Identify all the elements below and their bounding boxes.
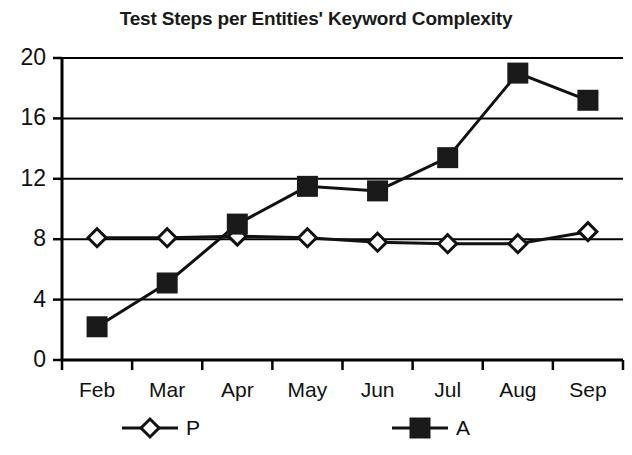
data-point-P-Feb (88, 229, 106, 247)
x-tick-label-sep: Sep (569, 378, 606, 401)
data-series-group (88, 64, 598, 337)
legend-marker-A (411, 419, 430, 438)
x-tick-label-mar: Mar (149, 378, 185, 401)
x-axis-labels-group: FebMarAprMayJunJulAugSep (79, 378, 607, 401)
x-tick-label-feb: Feb (79, 378, 115, 401)
x-tick-label-jul: Jul (434, 378, 461, 401)
data-point-P-Aug (509, 235, 527, 253)
data-point-P-Jul (439, 235, 457, 253)
data-point-P-Jun (369, 233, 387, 251)
x-tick-label-may: May (288, 378, 328, 401)
legend-label-A: A (456, 416, 470, 439)
chart-container: Test Steps per Entities' Keyword Complex… (0, 0, 632, 455)
data-point-P-Sep (579, 223, 597, 241)
y-tick-label-16: 16 (20, 104, 46, 130)
line-chart-plot: 048121620 FebMarAprMayJunJulAugSep PA (0, 0, 632, 455)
y-tick-label-8: 8 (33, 225, 46, 251)
x-tick-label-aug: Aug (499, 378, 536, 401)
data-point-A-Jun (368, 181, 387, 200)
y-axis-labels-group: 048121620 (20, 44, 46, 372)
legend-marker-P (141, 419, 159, 437)
gridlines-group (62, 58, 623, 300)
data-point-A-Sep (578, 91, 597, 110)
data-point-A-Apr (228, 215, 247, 234)
data-point-A-Aug (508, 64, 527, 83)
x-tick-label-jun: Jun (361, 378, 395, 401)
tick-marks-group (53, 58, 623, 370)
data-point-A-Jul (438, 148, 457, 167)
axes-group (62, 57, 623, 360)
data-point-A-Feb (88, 317, 107, 336)
x-tick-label-apr: Apr (221, 378, 254, 401)
legend-label-P: P (186, 416, 200, 439)
y-tick-label-20: 20 (20, 44, 46, 70)
y-tick-label-0: 0 (33, 346, 46, 372)
data-point-A-May (298, 177, 317, 196)
y-tick-label-4: 4 (33, 286, 46, 312)
y-tick-label-12: 12 (20, 165, 46, 191)
data-point-P-May (298, 229, 316, 247)
data-point-P-Mar (158, 229, 176, 247)
chart-legend: PA (122, 416, 470, 439)
data-point-A-Mar (158, 273, 177, 292)
